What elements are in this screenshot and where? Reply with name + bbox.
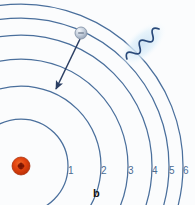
orbit-label-2: 2 (101, 166, 107, 176)
orbit-arc-3 (0, 59, 128, 205)
panel-caption: b (93, 188, 100, 199)
bohr-atom-figure-panel-b: 1 2 3 4 5 6 b (0, 0, 195, 205)
orbit-label-3: 3 (128, 166, 134, 176)
orbit-arc-2 (0, 86, 101, 205)
orbit-label-6: 6 (183, 166, 189, 176)
electron (75, 27, 87, 39)
orbit-label-4: 4 (152, 166, 158, 176)
orbit-label-5: 5 (169, 166, 175, 176)
orbit-label-1: 1 (68, 166, 74, 176)
electron-transition-arrow (56, 39, 80, 89)
orbit-arc-1 (0, 119, 68, 205)
nucleus (12, 157, 30, 175)
photon-glow (110, 12, 176, 76)
atom-diagram-svg (0, 0, 195, 205)
